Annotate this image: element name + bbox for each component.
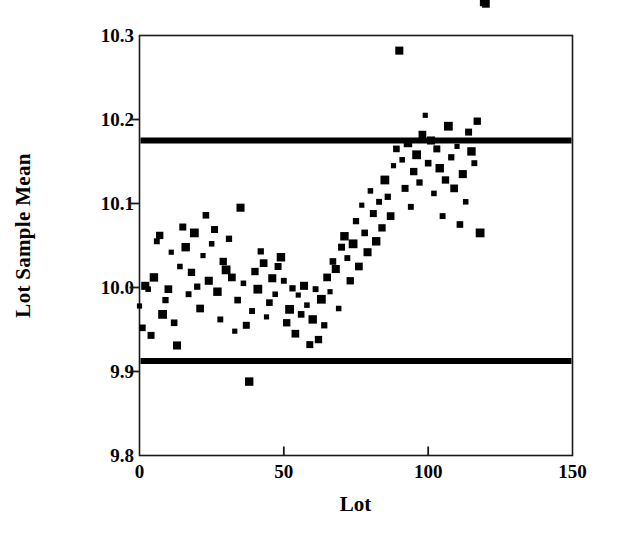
data-point	[347, 277, 354, 284]
data-point	[330, 258, 337, 265]
data-point	[471, 160, 477, 166]
data-point	[313, 286, 319, 292]
data-point	[412, 150, 421, 159]
data-point	[378, 224, 385, 231]
data-point	[431, 191, 437, 197]
data-point	[387, 212, 395, 220]
data-point	[249, 308, 255, 314]
data-point	[245, 377, 253, 385]
data-point	[361, 230, 368, 237]
data-point	[154, 238, 160, 244]
data-point	[304, 302, 310, 308]
data-point	[266, 299, 273, 306]
data-point	[158, 310, 167, 319]
data-point	[315, 336, 322, 343]
data-point	[292, 330, 300, 338]
data-point	[272, 291, 278, 297]
data-point	[317, 295, 326, 304]
data-point	[385, 194, 391, 200]
data-point	[467, 147, 475, 155]
data-point	[165, 285, 173, 293]
data-point	[427, 136, 435, 144]
data-point	[323, 274, 331, 282]
data-point	[283, 319, 290, 326]
data-point	[150, 273, 158, 281]
data-point	[459, 170, 467, 178]
data-point	[457, 221, 464, 228]
data-point	[332, 265, 340, 273]
data-point	[425, 160, 432, 167]
data-point	[391, 163, 396, 168]
data-point	[349, 239, 358, 248]
x-axis-tick-label: 50	[254, 462, 314, 481]
data-point	[190, 229, 199, 238]
data-point	[463, 199, 469, 205]
scatter-chart: Lot Sample Mean 9.89.910.010.110.210.3 0…	[0, 0, 621, 538]
data-point	[338, 244, 345, 251]
data-point	[442, 176, 449, 183]
data-point	[433, 145, 440, 152]
data-point	[476, 229, 485, 238]
data-point	[285, 305, 294, 314]
data-point	[372, 237, 380, 245]
data-point	[368, 188, 374, 194]
data-point	[209, 241, 215, 247]
x-axis-tick-label: 0	[110, 462, 170, 481]
data-point	[253, 285, 262, 294]
data-point	[444, 122, 453, 131]
data-point	[234, 297, 241, 304]
data-point	[340, 232, 348, 240]
data-point	[162, 297, 168, 303]
data-point	[296, 292, 301, 297]
data-point	[306, 341, 313, 348]
data-point	[344, 255, 350, 261]
data-point	[179, 224, 186, 231]
x-axis-tick-labels: 050100150	[0, 462, 621, 492]
data-point	[268, 274, 276, 282]
data-point	[217, 316, 223, 322]
data-point	[203, 212, 210, 219]
data-point	[205, 277, 213, 285]
data-point	[243, 322, 250, 329]
data-point	[359, 203, 364, 208]
data-point	[465, 129, 472, 136]
data-point	[222, 265, 231, 274]
data-point	[145, 286, 151, 292]
data-point	[228, 274, 236, 282]
data-point	[450, 185, 458, 193]
data-point	[241, 281, 247, 287]
data-point	[298, 311, 305, 318]
x-axis-tick-label: 150	[543, 462, 603, 481]
data-point	[289, 285, 295, 291]
data-point	[237, 204, 245, 212]
x-axis-tick-label: 100	[398, 462, 458, 481]
data-point	[364, 248, 372, 256]
data-point	[308, 315, 316, 323]
data-point	[281, 278, 287, 284]
data-point	[482, 0, 490, 8]
data-point	[454, 144, 459, 149]
data-point	[436, 164, 444, 172]
data-point	[321, 322, 327, 328]
data-point	[399, 157, 405, 163]
data-point	[264, 314, 269, 319]
data-point	[226, 236, 232, 242]
data-point	[393, 146, 400, 153]
data-point	[186, 291, 192, 297]
data-point	[220, 258, 227, 265]
data-point	[380, 176, 389, 185]
data-point	[275, 263, 282, 270]
data-point	[336, 306, 342, 312]
data-point	[277, 253, 285, 261]
data-point	[327, 289, 332, 294]
data-point	[419, 131, 427, 139]
data-point	[188, 269, 195, 276]
data-point	[408, 204, 414, 210]
data-point	[258, 248, 264, 254]
data-point	[213, 287, 221, 295]
data-point	[171, 319, 178, 326]
data-point	[260, 259, 268, 267]
data-point	[156, 232, 163, 239]
data-point	[395, 47, 403, 55]
data-point	[448, 154, 454, 160]
